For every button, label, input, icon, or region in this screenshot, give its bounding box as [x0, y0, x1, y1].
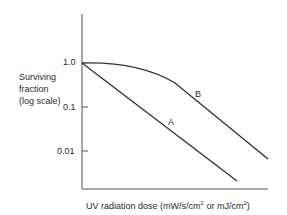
series-label-b: B — [195, 89, 201, 100]
x-axis-label-text-3: ) — [247, 201, 250, 211]
y-axis-label-line1: Surviving — [19, 72, 56, 83]
y-axis-label-line3: (log scale) — [19, 96, 61, 107]
x-axis-label-text-2: or mJ/cm — [204, 201, 244, 211]
x-axis-label-text: UV radiation dose (mW/s/cm — [86, 201, 201, 211]
x-axis-label: UV radiation dose (mW/s/cm2 or mJ/cm2) — [86, 198, 250, 212]
series-label-a: A — [168, 117, 174, 128]
y-tick-label-1: 1.0 — [63, 57, 76, 68]
chart-canvas — [0, 0, 287, 215]
y-tick-label-0-1: 0.1 — [63, 102, 76, 113]
curve-a — [82, 63, 237, 181]
curve-b — [82, 63, 268, 159]
y-tick-label-0-01: 0.01 — [57, 146, 75, 157]
y-axis-label-line2: fraction — [19, 84, 49, 95]
